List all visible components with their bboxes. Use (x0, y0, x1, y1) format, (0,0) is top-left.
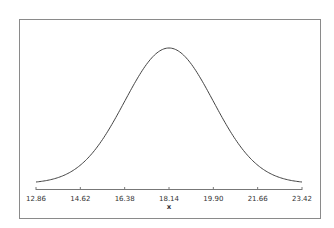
x-tick-label: 14.62 (70, 195, 90, 203)
chart: 12.8614.6216.3818.1419.9021.6623.42 x (0, 0, 334, 228)
x-tick-label: 19.90 (203, 195, 223, 203)
x-tick-label: 18.14 (159, 195, 180, 203)
x-tick-label: 21.66 (248, 195, 269, 203)
plot-frame (20, 20, 321, 219)
x-axis-title: x (167, 203, 172, 211)
x-tick-label: 12.86 (26, 195, 47, 203)
x-tick-label: 23.42 (292, 195, 312, 203)
x-tick-label: 16.38 (115, 195, 135, 203)
